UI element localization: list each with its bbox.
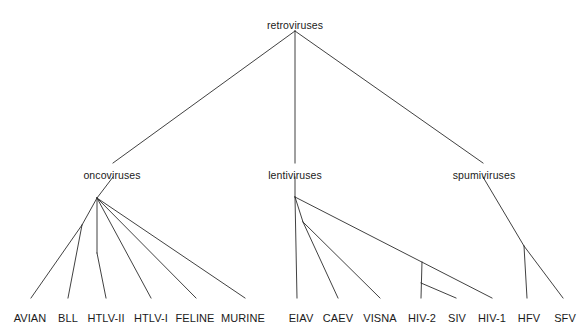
- tree-node-label-caev: CAEV: [323, 313, 353, 324]
- branch-retroviruses-to-oncoviruses: [113, 31, 295, 163]
- tree-node-label-retroviruses: retroviruses: [267, 20, 323, 31]
- branch-avian-bll-node-to-BLL: [68, 225, 82, 298]
- branch-caev-visna-node-to-CAEV: [303, 222, 338, 298]
- branch-spumiviruses-to-spumi-node: [483, 177, 524, 246]
- branch-spumi-node-to-SFV: [524, 246, 563, 298]
- tree-node-label-bll: BLL: [58, 313, 78, 324]
- tree-node-label-siv: SIV: [448, 313, 466, 324]
- branch-onco-node-to-avian-bll-node: [82, 198, 97, 225]
- tree-node-label-visna: VISNA: [363, 313, 397, 324]
- tree-node-label-murine: MURINE: [221, 313, 265, 324]
- tree-node-label-hfv: HFV: [518, 313, 540, 324]
- branch-avian-bll-node-to-AVIAN: [31, 225, 82, 298]
- branch-htlv-node-to-HTLV-II: [97, 253, 106, 298]
- branch-hiv-node-to-HIV-2: [421, 262, 422, 298]
- branch-onco-node-to-FELINE: [97, 198, 196, 298]
- tree-node-label-sfv: SFV: [554, 313, 576, 324]
- tree-node-label-htlv-i: HTLV-I: [134, 313, 168, 324]
- tree-node-label-hiv-2: HIV-2: [408, 313, 436, 324]
- branch-spumi-node-to-HFV: [524, 246, 527, 298]
- branch-lenti-node-to-HIV-1: [295, 197, 492, 298]
- tree-node-label-avian: AVIAN: [14, 313, 47, 324]
- branch-onco-node-to-MURINE: [97, 198, 245, 298]
- retrovirus-phylogenetic-tree: retrovirusesoncoviruseslentivirusesspumi…: [0, 0, 587, 331]
- tree-node-label-feline: FELINE: [175, 313, 214, 324]
- tree-node-label-spumiviruses: spumiviruses: [453, 170, 515, 181]
- tree-node-label-lentiviruses: lentiviruses: [268, 170, 322, 181]
- tree-node-label-oncoviruses: oncoviruses: [83, 170, 140, 181]
- branch-caev-visna-node-to-VISNA: [303, 222, 380, 298]
- tree-branch-lines: [0, 0, 587, 331]
- tree-node-label-eiav: EIAV: [289, 313, 314, 324]
- branch-retroviruses-to-spumiviruses: [295, 31, 483, 163]
- branch-onco-node-to-HTLV-I: [97, 198, 151, 298]
- tree-node-label-htlv-ii: HTLV-II: [87, 313, 124, 324]
- branch-lenti-node-to-EIAV: [295, 197, 297, 298]
- branch-hiv2-siv-node-to-SIV: [421, 283, 456, 298]
- branch-edge-group: [31, 31, 563, 298]
- tree-node-label-hiv-1: HIV-1: [478, 313, 506, 324]
